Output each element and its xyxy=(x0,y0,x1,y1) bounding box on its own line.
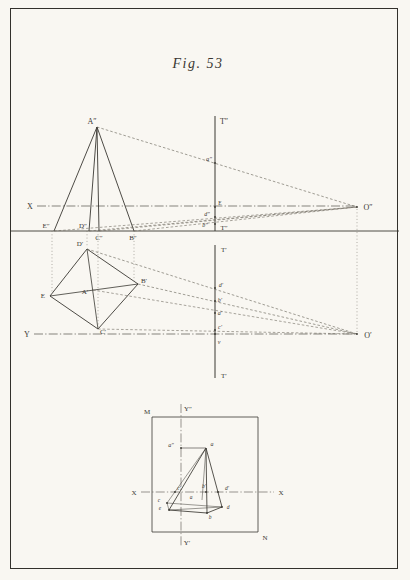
diagram-label-M: M xyxy=(144,408,151,416)
engraving-plate: Fig. 53 A″XE″D″C″B″T″a″Ed″b″T″O″T′D′EA′B… xyxy=(0,0,410,580)
diagram-line xyxy=(169,510,207,513)
diagram-label-Y: Y xyxy=(24,330,30,339)
diagram-label-ap: a″ xyxy=(206,155,212,162)
diagram-point xyxy=(174,491,176,493)
diagram-point xyxy=(180,447,182,449)
diagram-line xyxy=(206,448,207,513)
diagram-line xyxy=(134,207,357,231)
diagram-line xyxy=(87,249,138,284)
diagram-point xyxy=(214,206,216,208)
diagram-label-Tp: T″ xyxy=(220,117,228,126)
diagram-label-X: X xyxy=(27,202,33,211)
diagram-point xyxy=(214,287,216,289)
diagram-line xyxy=(169,448,206,510)
diagram-label-dp: d′ xyxy=(219,282,224,288)
diagram-line xyxy=(87,249,98,329)
diagram-point xyxy=(166,502,168,504)
diagram-label-Op: O′ xyxy=(364,331,372,340)
diagram-label-c: c xyxy=(158,497,161,503)
diagram-label-Cp: C′ xyxy=(100,328,107,336)
diagram-label-dp: d′ xyxy=(225,485,230,491)
diagram-line xyxy=(98,284,138,329)
diagram-label-Cp: C″ xyxy=(95,234,103,242)
diagram-label-Bp: B″ xyxy=(129,234,137,242)
diagram-line xyxy=(167,503,169,510)
diagram-label-b: b xyxy=(209,514,212,520)
diagram-point xyxy=(356,333,358,335)
diagram-label-Dp: D″ xyxy=(79,222,87,230)
diagram-point xyxy=(214,223,216,225)
diagram-label-dp: d″ xyxy=(204,211,210,217)
diagram-label-a: a xyxy=(211,441,214,447)
diagram-label-Yp: Y″ xyxy=(184,405,192,413)
diagram-point xyxy=(217,491,219,493)
diagram-line xyxy=(167,503,222,507)
diagram-label-Tp: T′ xyxy=(221,372,227,380)
diagram-label-Ap: A″ xyxy=(87,117,96,126)
diagram-line xyxy=(93,290,357,334)
diagram-point xyxy=(214,300,216,302)
diagram-line xyxy=(167,448,206,503)
diagram-label-a: a xyxy=(190,494,193,500)
geometry-svg: A″XE″D″C″B″T″a″Ed″b″T″O″T′D′EA′B′C′Yd′b′… xyxy=(0,0,410,580)
diagram-label-ap: a″ xyxy=(168,442,174,448)
diagram-point xyxy=(168,509,170,511)
diagram-line xyxy=(138,284,357,334)
diagram-point xyxy=(356,206,358,208)
diagram-label-X: X xyxy=(278,489,283,497)
diagram-point xyxy=(214,216,216,218)
diagram-point xyxy=(214,329,216,331)
diagram-label-bp: b′ xyxy=(218,297,223,303)
diagram-line xyxy=(97,127,134,231)
diagram-label-e: e xyxy=(159,505,162,511)
diagram-label-Dp: D′ xyxy=(77,240,84,248)
diagram-line xyxy=(87,249,357,334)
diagram-point xyxy=(205,491,207,493)
diagram-line xyxy=(97,127,99,231)
diagram-point xyxy=(206,512,208,514)
diagram-label-Bp: B′ xyxy=(141,277,148,285)
diagram-label-E: E xyxy=(218,200,222,206)
diagram-label-Ep: E″ xyxy=(42,222,49,230)
diagram-label-Tp: T″ xyxy=(220,224,227,232)
diagram-point xyxy=(214,333,216,335)
diagram-label-bp: b″ xyxy=(202,222,208,228)
diagram-label-N: N xyxy=(262,534,267,542)
diagram-point xyxy=(214,162,216,164)
diagram-point xyxy=(214,312,216,314)
diagram-label-E: E xyxy=(41,292,45,300)
diagram-line xyxy=(169,507,222,510)
diagram-label-v: v xyxy=(218,339,221,345)
diagram-label-Ap: A′ xyxy=(82,288,89,296)
diagram-label-bp: b′ xyxy=(202,483,207,489)
diagram-label-cp: c′ xyxy=(218,324,223,330)
diagram-label-X: X xyxy=(131,489,136,497)
diagram-line xyxy=(97,127,357,207)
diagram-point xyxy=(221,506,223,508)
diagram-line xyxy=(206,448,222,507)
diagram-label-Yp: Y′ xyxy=(184,539,191,547)
diagram-label-d: d xyxy=(227,504,230,510)
diagram-label-Op: O″ xyxy=(363,203,372,212)
diagram-line xyxy=(50,296,98,329)
diagram-label-ap: a′ xyxy=(218,310,223,316)
diagram-label-Tp: T′ xyxy=(221,246,227,254)
diagram-line xyxy=(98,329,357,334)
